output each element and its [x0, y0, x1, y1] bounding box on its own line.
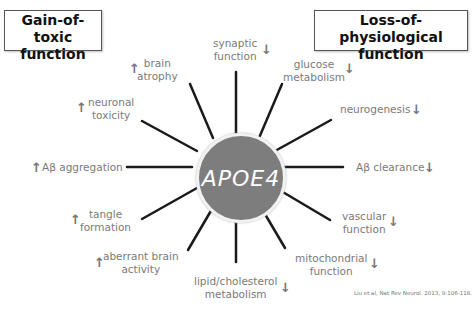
arrow-up-icon: ↑	[76, 101, 87, 114]
effect-line: neuronal	[88, 96, 134, 109]
ray-neurogenesis	[275, 120, 331, 151]
ray-aberrant	[188, 209, 212, 250]
apoe4-label: APOE4	[202, 166, 281, 191]
effect-line: Aβ aggregation	[42, 161, 123, 174]
arrow-down-icon: ↓	[261, 43, 272, 56]
ray-glucose	[259, 84, 282, 138]
effect-tangle-formation: tangle formation	[80, 208, 131, 234]
arrow-down-icon: ↓	[344, 62, 355, 75]
arrow-down-icon: ↓	[369, 257, 380, 270]
effect-line: activity	[103, 263, 179, 276]
arrow-down-icon: ↓	[280, 281, 291, 294]
effect-line: mitochondrial	[295, 252, 367, 265]
effect-mitochondrial-function: mitochondrial function	[295, 252, 367, 278]
effect-line: neurogenesis	[340, 103, 410, 116]
effect-neuronal-toxicity: neuronal toxicity	[88, 96, 134, 122]
effect-vascular-function: vascular function	[342, 210, 386, 236]
ray-tangle	[142, 188, 197, 219]
effect-glucose-metabolism: glucose metabolism	[283, 58, 345, 84]
ray-vascular	[276, 188, 330, 220]
apoe4-hub: APOE4	[196, 133, 286, 223]
arrow-down-icon: ↓	[388, 215, 399, 228]
effect-line: function	[213, 50, 257, 63]
effect-line: formation	[80, 221, 131, 234]
effect-line: lipid/cholesterol	[194, 275, 277, 288]
citation: Liu et al, Nat Rev Neurol. 2013, 9:106-1…	[354, 290, 472, 296]
effect-abeta-aggregation: Aβ aggregation	[42, 161, 123, 174]
effect-line: Aβ clearance	[356, 161, 424, 174]
effect-line: synaptic	[213, 37, 257, 50]
effect-line: metabolism	[194, 288, 277, 301]
arrow-down-icon: ↓	[411, 103, 422, 116]
effect-line: function	[342, 223, 386, 236]
effect-line: tangle	[80, 208, 131, 221]
effect-abeta-clearance: Aβ clearance	[356, 161, 424, 174]
effect-synaptic-function: synaptic function	[213, 37, 257, 63]
effect-lipid-cholesterol-metabolism: lipid/cholesterol metabolism	[194, 275, 277, 301]
effect-aberrant-brain-activity: aberrant brain activity	[103, 250, 179, 276]
effect-line: vascular	[342, 210, 386, 223]
ray-neuronal	[142, 121, 197, 151]
effect-brain-atrophy: brain atrophy	[137, 57, 178, 83]
arrow-down-icon: ↓	[424, 161, 435, 174]
effect-line: glucose	[283, 58, 345, 71]
effect-line: toxicity	[88, 109, 134, 122]
effect-line: aberrant brain	[103, 250, 179, 263]
arrow-up-icon: ↑	[31, 161, 42, 174]
effect-line: metabolism	[283, 71, 345, 84]
effect-line: brain	[137, 57, 178, 70]
ray-brain-atrophy	[190, 84, 213, 138]
effect-line: function	[295, 265, 367, 278]
effect-line: atrophy	[137, 70, 178, 83]
effect-neurogenesis: neurogenesis	[340, 103, 410, 116]
